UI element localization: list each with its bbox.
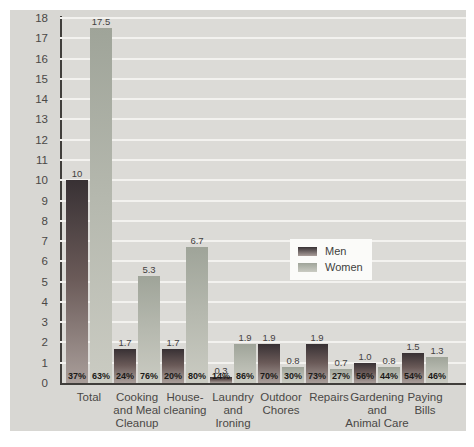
- bar-value-label: 1.9: [301, 332, 333, 343]
- legend-row-women: Women: [298, 262, 363, 273]
- bar-percent-label: 37%: [65, 371, 89, 381]
- y-tick-5: 5: [8, 275, 48, 289]
- y-tick-16: 16: [8, 52, 48, 66]
- bar-percent-label: 80%: [185, 371, 209, 381]
- y-tick-17: 17: [8, 31, 48, 45]
- bar-percent-label: 27%: [329, 371, 353, 381]
- legend-row-men: Men: [298, 246, 363, 257]
- legend-label-men: Men: [325, 246, 346, 257]
- y-tick-14: 14: [8, 92, 48, 106]
- bar-percent-label: 86%: [233, 371, 257, 381]
- bar-group-1: 1.724%5.376%: [114, 18, 160, 383]
- chart-card: 0123456789101112131415161718 1037%17.563…: [10, 10, 466, 431]
- y-tick-3: 3: [8, 315, 48, 329]
- bar-value-label: 6.7: [181, 235, 213, 246]
- bar-group-3: 0.314%1.986%: [210, 18, 256, 383]
- bar-group-7: 1.554%1.346%: [402, 18, 448, 383]
- y-tick-13: 13: [8, 112, 48, 126]
- bar-percent-label: 54%: [401, 371, 425, 381]
- y-tick-8: 8: [8, 214, 48, 228]
- legend-swatch-women: [298, 263, 317, 272]
- bar-group-5: 1.973%0.727%: [306, 18, 352, 383]
- bar-percent-label: 46%: [425, 371, 449, 381]
- bar-women-2: [186, 247, 208, 383]
- bar-percent-label: 73%: [305, 371, 329, 381]
- y-tick-10: 10: [8, 173, 48, 187]
- bar-value-label: 5.3: [133, 264, 165, 275]
- bar-value-label: 1.7: [109, 337, 141, 348]
- y-tick-0: 0: [8, 376, 48, 390]
- bar-percent-label: 56%: [353, 371, 377, 381]
- bar-chart-figure: Hours per Week 0123456789101112131415161…: [0, 0, 474, 447]
- y-tick-9: 9: [8, 194, 48, 208]
- legend: MenWomen: [290, 239, 372, 280]
- y-tick-18: 18: [8, 11, 48, 25]
- bar-value-label: 10: [61, 168, 93, 179]
- bar-percent-label: 24%: [113, 371, 137, 381]
- bar-percent-label: 76%: [137, 371, 161, 381]
- bar-percent-label: 14%: [209, 371, 233, 381]
- bar-value-label: 1.3: [421, 345, 453, 356]
- y-tick-2: 2: [8, 335, 48, 349]
- plot-area: 1037%17.563%1.724%5.376%1.720%6.780%0.31…: [62, 18, 466, 383]
- y-tick-15: 15: [8, 72, 48, 86]
- y-axis-tick-labels: 0123456789101112131415161718: [10, 18, 54, 383]
- bar-percent-label: 70%: [257, 371, 281, 381]
- bar-men-0: [66, 180, 88, 383]
- bar-percent-label: 30%: [281, 371, 305, 381]
- legend-swatch-men: [298, 247, 317, 256]
- bar-percent-label: 63%: [89, 371, 113, 381]
- bar-value-label: 1.9: [253, 332, 285, 343]
- bar-women-0: [90, 28, 112, 383]
- y-tick-11: 11: [8, 153, 48, 167]
- bar-value-label: 0.8: [277, 355, 309, 366]
- bar-value-label: 1.7: [157, 337, 189, 348]
- bar-group-2: 1.720%6.780%: [162, 18, 208, 383]
- bar-group-6: 1.056%0.844%: [354, 18, 400, 383]
- x-axis-category-labels: TotalCooking and Meal CleanupHouse- clea…: [10, 391, 466, 431]
- bar-women-1: [138, 276, 160, 383]
- y-tick-6: 6: [8, 254, 48, 268]
- y-tick-7: 7: [8, 234, 48, 248]
- bar-percent-label: 20%: [161, 371, 185, 381]
- legend-label-women: Women: [325, 262, 363, 273]
- category-label-7: Paying Bills: [383, 391, 467, 417]
- y-tick-1: 1: [8, 356, 48, 370]
- y-tick-4: 4: [8, 295, 48, 309]
- y-tick-12: 12: [8, 133, 48, 147]
- x-axis-line: [60, 383, 466, 385]
- bar-value-label: 0.8: [373, 355, 405, 366]
- bar-percent-label: 44%: [377, 371, 401, 381]
- bar-group-4: 1.970%0.830%: [258, 18, 304, 383]
- bar-group-0: 1037%17.563%: [66, 18, 112, 383]
- bar-value-label: 17.5: [85, 16, 117, 27]
